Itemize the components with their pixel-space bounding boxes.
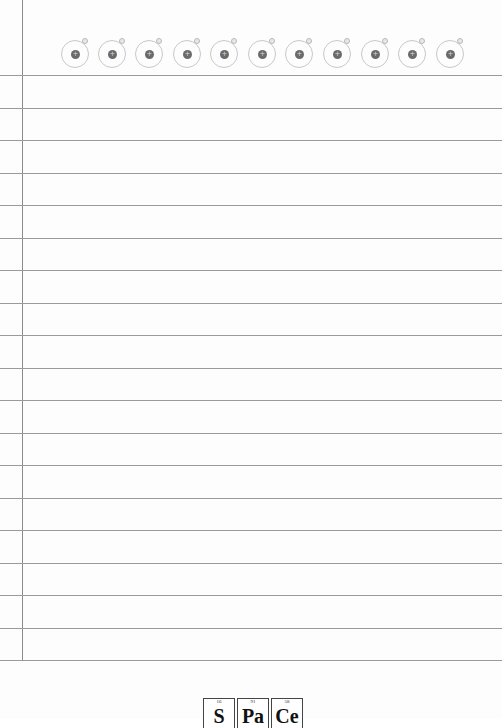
nucleus-icon: + [408,50,417,59]
atom-icon: + [248,40,276,68]
element-tile: 91Pa [237,698,269,728]
nucleus-icon: + [258,50,267,59]
rule-line [0,660,502,661]
nucleus-icon: + [108,50,117,59]
atom-icon: + [98,40,126,68]
electron-icon [457,38,463,44]
atom-header-row: +++++++++++ [0,0,502,75]
nucleus-icon: + [220,50,229,59]
atom-icon: + [398,40,426,68]
atom-icon: + [61,40,89,68]
rule-line [0,140,502,141]
electron-icon [194,38,200,44]
nucleus-icon: + [71,50,80,59]
rule-line [0,595,502,596]
rule-line [0,303,502,304]
rule-line [0,498,502,499]
electron-icon [231,38,237,44]
atom-icon: + [135,40,163,68]
electron-icon [419,38,425,44]
rule-line [0,433,502,434]
rule-line [0,563,502,564]
rule-line [0,270,502,271]
electron-icon [119,38,125,44]
electron-icon [82,38,88,44]
rule-line [0,400,502,401]
nucleus-icon: + [371,50,380,59]
rule-line [0,205,502,206]
atom-icon: + [285,40,313,68]
atomic-number: 16 [204,699,234,705]
rule-line [0,530,502,531]
element-symbol: Ce [274,706,300,726]
atomic-number: 58 [272,699,302,705]
nucleus-icon: + [446,50,455,59]
rule-line [0,238,502,239]
electron-icon [156,38,162,44]
element-tile: 16S [203,698,235,728]
rule-line [0,75,502,76]
element-symbol: S [206,706,232,726]
electron-icon [344,38,350,44]
nucleus-icon: + [295,50,304,59]
rule-line [0,108,502,109]
element-symbols-footer: 16S91Pa58Ce [203,698,303,728]
rule-line [0,628,502,629]
rule-line [0,335,502,336]
atom-icon: + [173,40,201,68]
atom-icon: + [436,40,464,68]
electron-icon [382,38,388,44]
electron-icon [269,38,275,44]
electron-icon [306,38,312,44]
margin-line [22,0,23,661]
atom-icon: + [210,40,238,68]
atom-icon: + [323,40,351,68]
rule-line [0,368,502,369]
rule-line [0,173,502,174]
atomic-number: 91 [238,699,268,705]
atom-icon: + [361,40,389,68]
nucleus-icon: + [183,50,192,59]
rule-line [0,465,502,466]
nucleus-icon: + [333,50,342,59]
nucleus-icon: + [145,50,154,59]
element-tile: 58Ce [271,698,303,728]
element-symbol: Pa [240,706,266,726]
